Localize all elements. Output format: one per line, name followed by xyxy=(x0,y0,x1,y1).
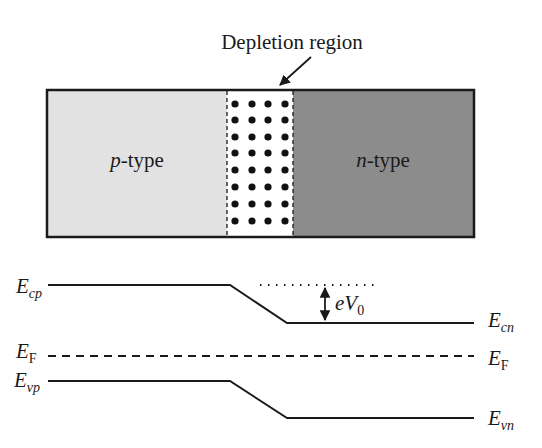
dopant-dot xyxy=(248,133,255,140)
dopant-dot xyxy=(248,183,255,190)
depletion-pointer-arrow-icon xyxy=(280,57,311,85)
dopant-dot xyxy=(264,217,271,224)
ef-right-label: EF xyxy=(487,346,509,373)
ecp-label: Ecp xyxy=(15,274,42,301)
depletion-region xyxy=(227,90,293,237)
junction-block: p-type n-type xyxy=(47,90,474,237)
dopant-dot xyxy=(248,217,255,224)
dopant-dot xyxy=(281,100,288,107)
dopant-dot xyxy=(264,116,271,123)
ecn-label: Ecn xyxy=(487,308,514,335)
dopant-dot xyxy=(264,200,271,207)
dopant-dot xyxy=(264,133,271,140)
dopant-dot xyxy=(264,183,271,190)
dopant-dot xyxy=(264,166,271,173)
dopant-dot xyxy=(264,149,271,156)
dopant-dot xyxy=(264,100,271,107)
dopant-dot xyxy=(281,200,288,207)
p-type-label: p-type xyxy=(108,148,164,172)
n-type-label: n-type xyxy=(356,148,410,172)
dopant-dot xyxy=(248,149,255,156)
dopant-dot xyxy=(248,166,255,173)
dopant-dot xyxy=(231,200,238,207)
dopant-dot xyxy=(231,100,238,107)
barrier-label: eV0 xyxy=(335,291,364,318)
dopant-dot xyxy=(248,200,255,207)
dopant-dot xyxy=(281,217,288,224)
dopant-dot xyxy=(281,133,288,140)
dopant-dot xyxy=(231,183,238,190)
conduction-band-edge xyxy=(48,285,474,323)
band-diagram: eV0 Ecp EF Evp Ecn EF Evn xyxy=(13,274,514,433)
dopant-dot xyxy=(231,133,238,140)
evp-label: Evp xyxy=(13,368,40,395)
dopant-dot xyxy=(231,116,238,123)
dopant-dot xyxy=(231,166,238,173)
dopant-dot xyxy=(281,183,288,190)
ef-left-label: EF xyxy=(15,339,37,366)
depletion-region-label: Depletion region xyxy=(221,30,363,54)
dopant-dot xyxy=(248,100,255,107)
pn-junction-diagram: Depletion region p-type n-type eV0 Ecp E… xyxy=(0,0,542,448)
dopant-dot xyxy=(231,149,238,156)
dopant-dot xyxy=(231,217,238,224)
dopant-dot xyxy=(248,116,255,123)
valence-band-edge xyxy=(48,381,474,418)
dopant-dot xyxy=(281,149,288,156)
dopant-dot xyxy=(281,116,288,123)
evn-label: Evn xyxy=(487,406,514,433)
dopant-dot xyxy=(281,166,288,173)
